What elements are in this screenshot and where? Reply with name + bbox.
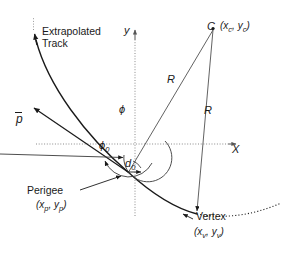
center-point-label: C xyxy=(207,20,215,32)
center-coordinates-label: (xc, yc) xyxy=(220,20,250,31)
radius-label-2: R xyxy=(204,104,212,116)
vertex-leader-line xyxy=(183,214,193,219)
x-axis-label: X xyxy=(232,143,239,155)
center-x-subscript: c xyxy=(228,25,232,34)
momentum-vector-arrow xyxy=(34,108,128,172)
paren-close: ) xyxy=(246,20,249,31)
momentum-vector-label: p xyxy=(16,113,23,126)
perigee-leader-line xyxy=(80,176,121,190)
extrapolated-track-line2: Track xyxy=(42,38,101,50)
callout-leaders-group xyxy=(80,176,193,219)
d0-subscript: 0 xyxy=(131,163,135,172)
center-y-subscript: c xyxy=(243,25,247,34)
axis-group xyxy=(36,30,236,216)
radius-label-1: R xyxy=(167,73,175,85)
vertex-coordinates-label: (xv, yv) xyxy=(194,226,224,237)
phi0-angle-label: ϕ0 xyxy=(99,139,109,151)
perigee-x-subscript: p xyxy=(44,204,48,213)
phi0-subscript: 0 xyxy=(105,145,109,154)
extrapolated-track-label: Extrapolated Track xyxy=(42,26,101,50)
track-parameters-diagram: Extrapolated Track p y X C (xc, yc) R R … xyxy=(0,0,300,264)
track-arrow xyxy=(35,34,37,45)
extrapolated-track-line1: Extrapolated xyxy=(42,26,101,38)
perigee-y-subscript: p xyxy=(59,204,63,213)
momentum-symbol: p xyxy=(16,113,23,126)
momentum-vector-group xyxy=(34,108,128,172)
center-y-symbol: y xyxy=(238,20,243,31)
radius-line-to-vertex xyxy=(197,30,213,211)
perigee-coordinates-label: (xp, yp) xyxy=(36,199,67,210)
d0-label: d0 xyxy=(125,157,135,169)
paren-close: ) xyxy=(63,199,66,210)
paren-close: ) xyxy=(220,226,223,237)
vertex-y-symbol: y xyxy=(212,226,217,237)
y-axis-label: y xyxy=(124,24,130,36)
vertex-y-subscript: v xyxy=(217,231,221,240)
vertex-label: Vertex xyxy=(196,211,226,223)
phi-angle-group xyxy=(0,141,172,182)
phi-angle-label: ϕ xyxy=(119,103,125,115)
perigee-label: Perigee xyxy=(27,185,63,197)
vertex-x-subscript: v xyxy=(202,231,206,240)
radius-line-to-perigee xyxy=(128,30,213,173)
